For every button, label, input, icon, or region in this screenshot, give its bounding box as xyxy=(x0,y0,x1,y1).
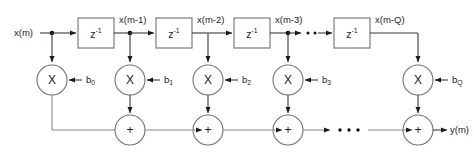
multiplier-4-glyph: X xyxy=(414,73,422,87)
delay-line-ellipsis xyxy=(307,32,317,35)
signal-label-x-m-q: x(m-Q) xyxy=(375,14,405,25)
diagram-canvas: z-1 z-1 z-1 xyxy=(0,0,474,156)
multiplier-1-glyph: X xyxy=(126,73,134,87)
multiplier-0-glyph: X xyxy=(48,73,56,87)
coefficient-label-b2: b2 xyxy=(242,74,251,86)
wire-mult0-to-adder1 xyxy=(52,95,124,130)
coefficient-label-b3: b3 xyxy=(322,74,331,86)
signal-label-x-m-3: x(m-3) xyxy=(275,14,302,25)
signal-label-x-m-1: x(m-1) xyxy=(119,14,146,25)
output-label-y-m: y(m) xyxy=(450,124,469,135)
multiplier-output-group xyxy=(52,95,418,130)
multiplier-2-glyph: X xyxy=(204,73,212,87)
adder-chain-ellipsis xyxy=(338,128,359,131)
delay-line-row: z-1 z-1 z-1 xyxy=(40,18,418,48)
adder-1-glyph: + xyxy=(126,123,133,137)
coefficient-label-b0: b0 xyxy=(86,74,95,86)
adder-4-glyph: + xyxy=(414,123,421,137)
signal-label-x-m: x(m) xyxy=(14,27,33,38)
signal-label-x-m-2: x(m-2) xyxy=(197,14,224,25)
multiplier-3-glyph: X xyxy=(284,73,292,87)
coefficient-label-bq: bQ xyxy=(452,74,463,87)
fir-filter-block-diagram: z-1 z-1 z-1 xyxy=(0,0,474,156)
adder-2-glyph: + xyxy=(204,123,211,137)
coefficient-label-b1: b1 xyxy=(164,74,173,86)
adder-3-glyph: + xyxy=(284,123,291,137)
